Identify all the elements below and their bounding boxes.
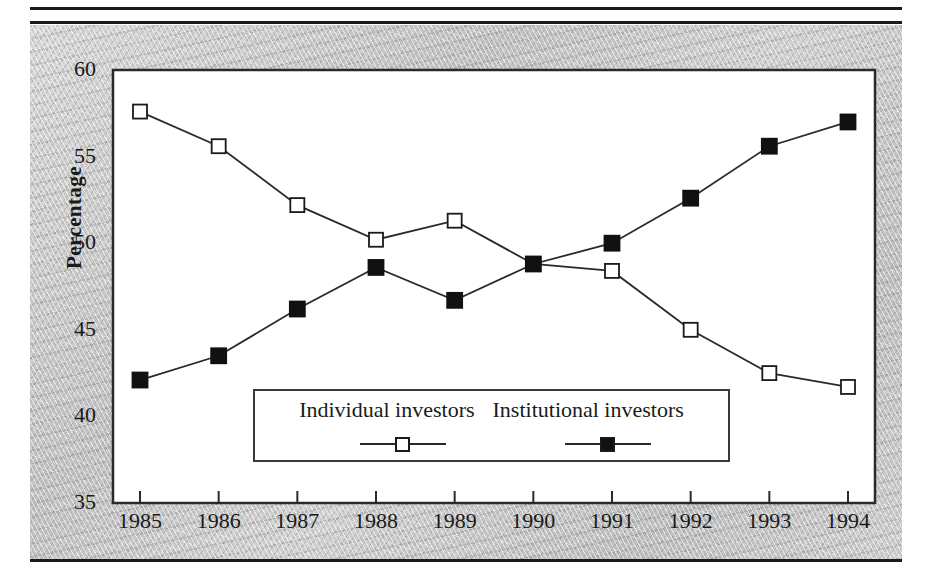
legend-labels: Individual investors Institutional inves… [255, 397, 728, 423]
y-tick-label-40: 40 [48, 402, 96, 428]
x-tick-label-1992: 1992 [651, 508, 731, 534]
bottom-rule [30, 559, 902, 562]
legend-label-institutional-investors: Institutional investors [493, 397, 684, 423]
x-tick-label-1990: 1990 [493, 508, 573, 534]
chart-legend: Individual investors Institutional inves… [253, 389, 730, 462]
y-tick-label-50: 50 [48, 229, 96, 255]
x-tick-label-1993: 1993 [729, 508, 809, 534]
x-tick-label-1991: 1991 [572, 508, 652, 534]
legend-keys [255, 431, 728, 457]
top-rule-outer [30, 7, 902, 10]
legend-key-institutional-investors [565, 431, 651, 457]
figure-panel [30, 25, 902, 559]
filled-square-icon [600, 437, 615, 452]
open-square-icon [395, 437, 410, 452]
y-tick-label-35: 35 [48, 489, 96, 515]
x-tick-label-1987: 1987 [257, 508, 337, 534]
legend-label-individual-investors: Individual investors [299, 397, 474, 423]
x-tick-label-1989: 1989 [415, 508, 495, 534]
figure-container: Percentage 60 55 50 45 40 35 1985 1986 1… [0, 0, 930, 584]
y-tick-label-60: 60 [48, 56, 96, 82]
x-tick-label-1986: 1986 [179, 508, 259, 534]
legend-key-individual-investors [360, 431, 446, 457]
y-tick-label-55: 55 [48, 143, 96, 169]
y-tick-label-45: 45 [48, 316, 96, 342]
top-rule-inner [30, 21, 902, 24]
x-tick-label-1988: 1988 [336, 508, 416, 534]
x-tick-label-1994: 1994 [808, 508, 888, 534]
x-tick-label-1985: 1985 [100, 508, 180, 534]
